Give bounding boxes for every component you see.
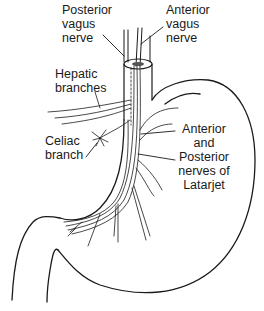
esophagus [124,59,152,125]
label-line: nerves of [176,164,232,178]
label-line: branches [55,81,106,95]
label-line: nerve [62,31,112,45]
stomach-vagus-diagram: Posterior vagus nerve Anterior vagus ner… [0,0,264,311]
label-line: nerve [166,31,210,45]
label-line: Posterior [176,150,232,164]
label-line: Anterior [176,122,232,136]
label-line: Anterior [166,3,210,17]
label-anterior-vagus-nerve: Anterior vagus nerve [166,3,210,45]
label-line: branch [45,148,83,162]
label-line: Hepatic [55,67,106,81]
label-nerves-of-latarjet: Anterior and Posterior nerves of Latarje… [176,122,232,192]
label-posterior-vagus-nerve: Posterior vagus nerve [62,3,112,45]
label-line: Latarjet [176,178,232,192]
hepatic-branches [48,92,131,124]
label-celiac-branch: Celiac branch [45,134,83,162]
label-line: Posterior [62,3,112,17]
label-line: vagus [62,17,112,31]
label-line: Celiac [45,134,83,148]
label-line: vagus [166,17,210,31]
label-hepatic-branches: Hepatic branches [55,67,106,95]
label-line: and [176,136,232,150]
